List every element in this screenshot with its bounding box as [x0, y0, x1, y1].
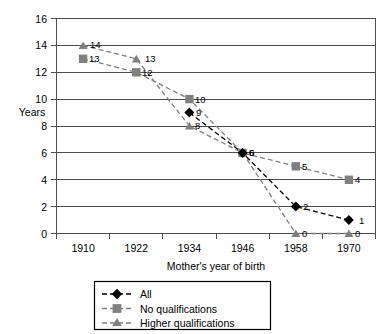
chart-container: 16 14 12 10 8 6 4 2 0 Years 1910 1922 19…: [0, 0, 382, 334]
x-tick-label-1970: 1970: [337, 242, 361, 254]
x-tick-label-1922: 1922: [125, 242, 149, 254]
series-line-all: [189, 113, 349, 221]
y-axis: 16 14 12 10 8 6 4 2 0 Years: [19, 13, 57, 240]
point-label-noqual-1934: 10: [195, 94, 206, 105]
y-tick-label-10: 10: [35, 93, 47, 105]
point-label-noqual-1958: 5: [302, 161, 307, 172]
y-axis-title: Years: [19, 106, 45, 118]
x-axis-title: Mother's year of birth: [167, 260, 265, 272]
y-tick-label-12: 12: [35, 66, 47, 78]
point-label-higher-1970: 0: [355, 228, 360, 239]
marker-noqual-1910: [79, 55, 87, 63]
point-label-higher-1922: 13: [145, 53, 156, 64]
legend-label-no-qualifications: No qualifications: [140, 303, 217, 315]
x-axis: 1910 1922 1934 1946 1958 1970 Mother's y…: [57, 234, 376, 273]
legend-label-all: All: [140, 288, 152, 300]
point-label-noqual-1970: 4: [355, 174, 360, 185]
x-tick-label-1946: 1946: [231, 242, 255, 254]
y-tick-label-0: 0: [41, 228, 47, 240]
point-label-higher-1958: 0: [302, 228, 307, 239]
y-tick-label-2: 2: [41, 201, 47, 213]
series-line-higher-qualifications: [83, 45, 349, 233]
y-tick-label-14: 14: [35, 39, 47, 51]
marker-noqual-1958: [292, 162, 300, 170]
marker-noqual-1922: [132, 68, 140, 76]
chart-legend: All No qualifications Higher qualificati…: [95, 282, 271, 330]
point-label-noqual-1922: 12: [142, 67, 153, 78]
point-label-higher-1934: 8: [195, 120, 200, 131]
y-tick-label-6: 6: [41, 147, 47, 159]
series-higher-qualifications: 14 13 8 6 0 0: [79, 39, 361, 239]
point-label-all-1934: 9: [196, 107, 201, 118]
marker-all-1970: [344, 215, 354, 225]
point-label-higher-1910: 14: [90, 39, 101, 50]
point-label-all-1958: 2: [303, 201, 308, 212]
legend-label-higher-qualifications: Higher qualifications: [140, 317, 235, 329]
legend-item-no-qualifications[interactable]: No qualifications: [102, 303, 217, 315]
marker-noqual-1970: [345, 176, 353, 184]
line-chart: 16 14 12 10 8 6 4 2 0 Years 1910 1922 19…: [0, 0, 382, 334]
marker-noqual-1934: [185, 95, 193, 103]
series-line-no-qualifications: [83, 59, 349, 180]
series-all: 9 6 2 1: [184, 107, 364, 226]
y-tick-label-4: 4: [41, 174, 47, 186]
x-tick-label-1958: 1958: [284, 242, 308, 254]
point-label-all-1946: 6: [249, 147, 254, 158]
marker-all-1934: [184, 108, 194, 118]
y-tick-label-8: 8: [41, 120, 47, 132]
x-tick-label-1910: 1910: [71, 242, 95, 254]
x-tick-label-1934: 1934: [178, 242, 202, 254]
y-tick-label-16: 16: [35, 13, 47, 25]
square-marker-icon: [113, 304, 122, 313]
point-label-all-1970: 1: [359, 215, 364, 226]
point-label-noqual-1910: 13: [89, 53, 100, 64]
